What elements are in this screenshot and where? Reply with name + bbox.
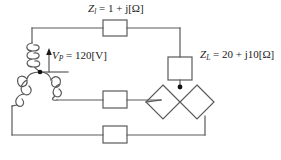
circuit-schematic bbox=[0, 0, 281, 160]
load-impedance-unit: [Ω] bbox=[259, 48, 275, 60]
circuit-diagram-canvas: Zl = 1 + j[Ω] VP = 120[V] ZL = 20 + j10[… bbox=[0, 0, 281, 160]
load-impedance-equals: = bbox=[213, 48, 219, 60]
source-winding-phase-a bbox=[27, 43, 40, 72]
source-neutral-node bbox=[38, 70, 43, 75]
load-impedance-diamond-right bbox=[180, 85, 214, 119]
load-impedance-vertical bbox=[168, 57, 192, 80]
middle-line-impedance bbox=[103, 91, 127, 108]
source-voltage-arrow-head bbox=[46, 48, 52, 55]
load-impedance-label: ZL = 20 + j10[Ω] bbox=[200, 49, 274, 62]
source-voltage-label: VP = 120[V] bbox=[52, 50, 107, 63]
load-impedance-diamond-left bbox=[146, 85, 180, 119]
source-voltage-unit: [V] bbox=[92, 49, 107, 61]
bottom-line-impedance bbox=[103, 126, 127, 143]
line-impedance-subscript: l bbox=[94, 7, 96, 16]
source-voltage-value: 120 bbox=[75, 49, 92, 61]
source-winding-phase-b bbox=[40, 72, 61, 100]
line-impedance-equals: = bbox=[99, 2, 105, 14]
source-voltage-subscript: P bbox=[59, 54, 64, 63]
source-voltage-equals: = bbox=[66, 49, 72, 61]
line-impedance-unit: [Ω] bbox=[128, 2, 144, 14]
line-impedance-value: 1 + j bbox=[108, 2, 128, 14]
source-voltage-symbol: V bbox=[52, 49, 59, 61]
line-impedance-label: Zl = 1 + j[Ω] bbox=[88, 3, 144, 16]
load-top-junction-node bbox=[178, 85, 183, 90]
load-impedance-value: 20 + j10 bbox=[222, 48, 259, 60]
source-winding-phase-c bbox=[12, 72, 40, 106]
load-impedance-subscript: L bbox=[206, 53, 210, 62]
top-line-impedance bbox=[103, 20, 127, 36]
